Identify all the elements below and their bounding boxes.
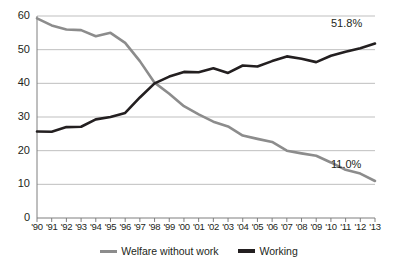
legend-label: Working bbox=[259, 246, 297, 257]
line-chart: 0102030405060 '90'91'92'93'94'95'96'97'9… bbox=[0, 0, 398, 265]
y-tick-label-10: 10 bbox=[4, 178, 30, 189]
legend-item-welfare-without-work[interactable]: Welfare without work bbox=[100, 246, 218, 257]
y-tick-label-60: 60 bbox=[4, 10, 30, 21]
y-tick-label-50: 50 bbox=[4, 44, 30, 55]
series-line-welfare-without-work bbox=[37, 18, 375, 181]
series-layer bbox=[37, 18, 375, 181]
x-tick-label-13: '13 bbox=[366, 222, 384, 232]
y-tick-label-0: 0 bbox=[4, 212, 30, 223]
working-end-label: 51.8% bbox=[331, 18, 362, 29]
chart-legend: Welfare without workWorking bbox=[0, 243, 398, 259]
y-tick-label-20: 20 bbox=[4, 145, 30, 156]
y-tick-label-40: 40 bbox=[4, 77, 30, 88]
welfare-end-label: 11.0% bbox=[331, 159, 361, 170]
y-tick-label-30: 30 bbox=[4, 111, 30, 122]
legend-swatch-icon bbox=[238, 249, 255, 252]
legend-item-working[interactable]: Working bbox=[238, 246, 297, 257]
legend-swatch-icon bbox=[100, 250, 117, 253]
legend-label: Welfare without work bbox=[121, 246, 218, 257]
